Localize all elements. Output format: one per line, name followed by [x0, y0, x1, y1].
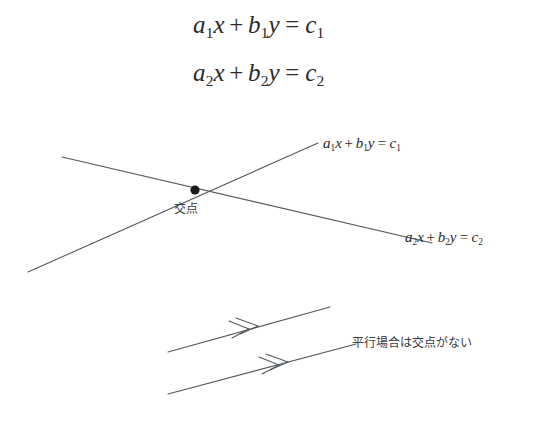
coefficient-a: a	[323, 135, 331, 151]
parallel-no-intersection-note: 平行場合は交点がない	[352, 337, 472, 349]
equals-operator: =	[375, 135, 390, 151]
equals-operator: =	[457, 229, 472, 245]
plus-operator: +	[424, 229, 438, 245]
callout-label-line-2: a2x+b2y=c2	[405, 230, 483, 245]
parallel-line-lower	[168, 344, 356, 394]
line-equation-2	[62, 157, 432, 243]
intersection-point-dot	[190, 185, 199, 194]
callout-label-line-1: a1x+b1y=c1	[323, 136, 401, 151]
subscript-c: 2	[478, 237, 483, 247]
subscript-c: 1	[396, 143, 401, 153]
parallel-marker-lower-icon	[259, 354, 288, 374]
variable-x: x	[417, 229, 424, 245]
subscript-b: 2	[445, 237, 450, 247]
subscript-b: 1	[363, 143, 368, 153]
parallel-marker-upper-icon	[229, 318, 258, 338]
subscript-a: 1	[331, 143, 336, 153]
diagram-drawing	[0, 0, 541, 431]
figure-canvas: a1x+b1y=c1 a2x+b2y=c2 a1x+b1y=c1	[0, 0, 541, 431]
variable-y: y	[368, 135, 375, 151]
coefficient-a: a	[405, 229, 413, 245]
line-equation-1	[28, 143, 318, 272]
variable-x: x	[335, 135, 342, 151]
intersection-point-label: 交点	[174, 203, 198, 215]
subscript-a: 2	[413, 237, 418, 247]
variable-y: y	[450, 229, 457, 245]
plus-operator: +	[342, 135, 356, 151]
